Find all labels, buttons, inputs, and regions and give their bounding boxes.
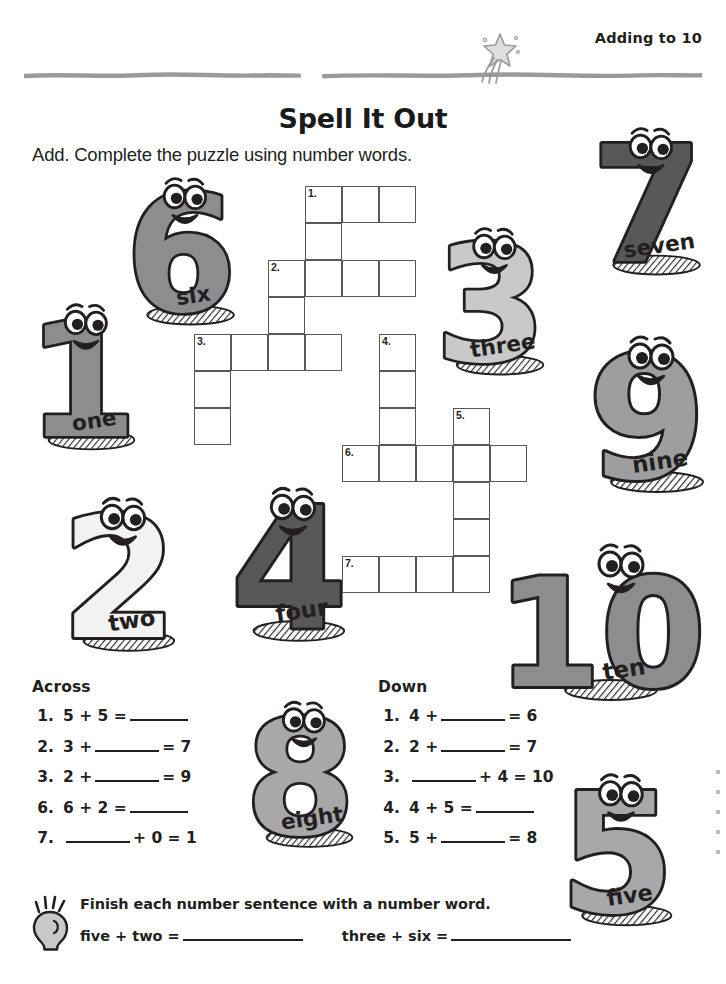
header-divider — [24, 72, 702, 79]
crossword-cell-number: 7. — [345, 557, 354, 569]
crossword-cell[interactable] — [231, 334, 268, 371]
crossword-cell[interactable] — [379, 186, 416, 223]
crossword-cell[interactable]: 3. — [194, 334, 231, 371]
clue-answer-blank[interactable] — [130, 797, 188, 813]
clue-number: 3. — [32, 768, 54, 786]
clue-text-before: 3 + — [63, 738, 92, 756]
down-clue-list: 1.4 += 62.2 += 73.+ 4 = 104.4 + 5 =5.5 +… — [378, 705, 554, 847]
crossword-cell[interactable]: 7. — [342, 556, 379, 593]
crossword-cell[interactable] — [305, 223, 342, 260]
number-character-seven: 7seven — [588, 122, 710, 282]
crossword-cell-number: 6. — [345, 446, 354, 458]
crossword-cell[interactable] — [379, 260, 416, 297]
crossword-cell[interactable] — [490, 445, 527, 482]
clue-text-after: = 6 — [508, 707, 537, 725]
crossword-cell[interactable]: 2. — [268, 260, 305, 297]
across-clue-list: 1.5 + 5 =2.3 += 73.2 += 96.6 + 2 =7.+ 0 … — [32, 705, 197, 847]
footer-problem-1-answer-blank[interactable] — [183, 925, 303, 941]
footer-instruction: Finish each number sentence with a numbe… — [80, 896, 574, 912]
down-clue-3: 3.+ 4 = 10 — [378, 766, 554, 786]
clue-number: 5. — [378, 829, 400, 847]
clue-answer-blank[interactable] — [476, 797, 534, 813]
crossword-cell[interactable] — [268, 297, 305, 334]
crossword-cell[interactable] — [194, 408, 231, 445]
down-clue-4: 4.4 + 5 = — [378, 797, 554, 817]
number-character-one: 1one — [28, 290, 140, 465]
clue-number: 6. — [32, 799, 54, 817]
number-character-five: 5five — [558, 768, 680, 933]
clue-text-before: 5 + — [409, 829, 438, 847]
crossword-cell[interactable] — [416, 445, 453, 482]
clue-number: 3. — [378, 768, 400, 786]
clue-text-before: 4 + 5 = — [409, 799, 473, 817]
clue-answer-blank[interactable] — [66, 827, 130, 843]
down-clue-2: 2.2 += 7 — [378, 736, 554, 756]
clue-text-after: = 7 — [162, 738, 191, 756]
across-clue-1: 1.5 + 5 = — [32, 705, 197, 725]
clue-number: 4. — [378, 799, 400, 817]
crossword-cell[interactable] — [416, 556, 453, 593]
crossword-cell[interactable] — [305, 334, 342, 371]
crossword-cell[interactable] — [342, 186, 379, 223]
crossword-cell[interactable] — [268, 334, 305, 371]
worksheet-page: Adding to 10 Spell It Out Add. Complete … — [0, 0, 726, 984]
crossword-grid[interactable]: 1.2.3.6.7.4.5. — [194, 186, 494, 596]
across-clue-6: 6.6 + 2 = — [32, 797, 197, 817]
page-header-label: Adding to 10 — [595, 30, 702, 46]
clue-answer-blank[interactable] — [441, 736, 505, 752]
crossword-cell[interactable] — [379, 445, 416, 482]
crossword-cell-number: 5. — [456, 409, 465, 421]
clue-number: 1. — [378, 707, 400, 725]
clue-answer-blank[interactable] — [412, 766, 476, 782]
clue-number: 2. — [32, 738, 54, 756]
clue-number: 1. — [32, 707, 54, 725]
number-character-nine: 9nine — [588, 330, 710, 500]
down-clues-section: Down 1.4 += 62.2 += 73.+ 4 = 104.4 + 5 =… — [378, 678, 554, 858]
down-clue-5: 5.5 += 8 — [378, 827, 554, 847]
clue-answer-blank[interactable] — [441, 827, 505, 843]
clue-answer-blank[interactable] — [130, 705, 188, 721]
clue-text-before: 2 + — [63, 768, 92, 786]
crossword-cell-number: 4. — [382, 335, 391, 347]
footer-problem-1-label: five + two = — [80, 928, 180, 944]
footer-challenge: Finish each number sentence with a numbe… — [80, 896, 574, 944]
crossword-cell[interactable] — [453, 519, 490, 556]
page-edge-marks — [716, 770, 722, 880]
footer-problem-2-answer-blank[interactable] — [451, 925, 571, 941]
clue-text-after: = 8 — [508, 829, 537, 847]
clue-number: 2. — [378, 738, 400, 756]
crossword-cell[interactable]: 4. — [379, 334, 416, 371]
crossword-cell[interactable] — [453, 556, 490, 593]
across-clue-2: 2.3 += 7 — [32, 736, 197, 756]
crossword-cell[interactable] — [379, 556, 416, 593]
clue-text-before: 6 + 2 = — [63, 799, 127, 817]
clue-answer-blank[interactable] — [95, 736, 159, 752]
crossword-cell[interactable]: 6. — [342, 445, 379, 482]
crossword-cell[interactable]: 5. — [453, 408, 490, 445]
crossword-cell[interactable] — [342, 260, 379, 297]
footer-problems: five + two = three + six = — [80, 925, 574, 944]
clue-answer-blank[interactable] — [95, 766, 159, 782]
crossword-cell[interactable] — [305, 260, 342, 297]
clue-text-before: 4 + — [409, 707, 438, 725]
crossword-cell[interactable] — [453, 445, 490, 482]
down-clue-1: 1.4 += 6 — [378, 705, 554, 725]
crossword-cell[interactable] — [194, 371, 231, 408]
clue-text-after: + 4 = 10 — [479, 768, 554, 786]
across-heading: Across — [32, 678, 197, 696]
down-heading: Down — [378, 678, 554, 696]
crossword-cell[interactable] — [379, 408, 416, 445]
crossword-cell[interactable]: 1. — [305, 186, 342, 223]
lightbulb-icon — [26, 890, 78, 952]
crossword-cell[interactable] — [379, 371, 416, 408]
clue-answer-blank[interactable] — [441, 705, 505, 721]
number-character-eight: 8eight — [246, 690, 358, 860]
footer-problem-2-label: three + six = — [342, 928, 448, 944]
across-clues-section: Across 1.5 + 5 =2.3 += 73.2 += 96.6 + 2 … — [32, 678, 197, 858]
crossword-cell-number: 3. — [197, 335, 206, 347]
clue-text-after: = 7 — [508, 738, 537, 756]
crossword-cell-number: 2. — [271, 261, 280, 273]
across-clue-3: 3.2 += 9 — [32, 766, 197, 786]
crossword-cell[interactable] — [453, 482, 490, 519]
clue-text-after: = 9 — [162, 768, 191, 786]
